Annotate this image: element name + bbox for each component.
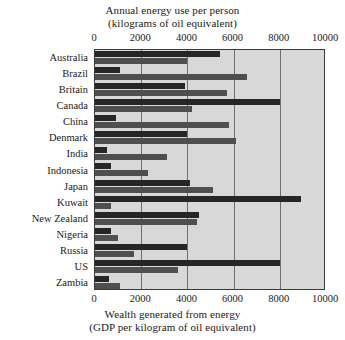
bar-wealth-generated [95, 219, 197, 225]
tick-label: 10000 [312, 32, 338, 44]
bar-row [95, 259, 324, 275]
plot-area [94, 49, 325, 290]
bar-energy-use [95, 196, 301, 202]
tick-label: 2000 [130, 32, 151, 44]
bar-energy-use [95, 276, 109, 282]
bar-wealth-generated [95, 283, 120, 289]
category-label: Russia [60, 245, 88, 256]
bar-row [95, 195, 324, 211]
bar-energy-use [95, 99, 280, 105]
category-label: Japan [64, 181, 88, 192]
tick-label: 4000 [176, 32, 197, 44]
bar-row [95, 130, 324, 146]
bar-wealth-generated [95, 203, 111, 209]
energy-wealth-bar-chart: Annual energy use per person (kilograms … [0, 0, 345, 340]
bar-row [95, 243, 324, 259]
category-label: Kuwait [57, 197, 88, 208]
tick-label: 4000 [176, 293, 197, 305]
bar-wealth-generated [95, 154, 167, 160]
bar-energy-use [95, 228, 111, 234]
bottom-axis-title-line1: Wealth generated from energy [0, 308, 345, 321]
bar-wealth-generated [95, 187, 213, 193]
bar-wealth-generated [95, 251, 134, 257]
bar-wealth-generated [95, 74, 247, 80]
bar-row [95, 114, 324, 130]
bar-wealth-generated [95, 170, 148, 176]
tick-label: 0 [91, 32, 96, 44]
tick-label: 8000 [268, 293, 289, 305]
bar-energy-use [95, 180, 190, 186]
bar-energy-use [95, 67, 120, 73]
category-label: Britain [59, 84, 88, 95]
bar-wealth-generated [95, 138, 236, 144]
bar-energy-use [95, 83, 185, 89]
bar-row [95, 211, 324, 227]
tick-label: 6000 [222, 32, 243, 44]
bar-wealth-generated [95, 122, 229, 128]
bar-energy-use [95, 244, 187, 250]
bar-energy-use [95, 115, 116, 121]
bar-energy-use [95, 51, 220, 57]
category-label: Denmark [49, 132, 88, 143]
category-label: Canada [57, 100, 89, 111]
bottom-axis-title-line2: (GDP per kilogram of oil equivalent) [0, 321, 345, 334]
bar-energy-use [95, 131, 187, 137]
category-label: China [63, 116, 88, 127]
category-label: New Zealand [32, 213, 88, 224]
bar-energy-use [95, 212, 199, 218]
bar-row [95, 66, 324, 82]
category-label: India [66, 148, 88, 159]
bar-energy-use [95, 147, 107, 153]
bar-row [95, 162, 324, 178]
tick-label: 2000 [130, 293, 151, 305]
bar-energy-use [95, 163, 111, 169]
category-label: Zambia [56, 277, 88, 288]
tick-label: 0 [91, 293, 96, 305]
bar-row [95, 146, 324, 162]
category-label: Indonesia [47, 165, 88, 176]
top-axis-title-line2: (kilograms of oil equivalent) [0, 17, 345, 30]
tick-label: 6000 [222, 293, 243, 305]
bar-row [95, 227, 324, 243]
bar-wealth-generated [95, 90, 227, 96]
top-axis-tick-labels: 0200040006000800010000 [0, 32, 345, 46]
bar-energy-use [95, 260, 280, 266]
category-label: Nigeria [57, 229, 89, 240]
tick-label: 10000 [312, 293, 338, 305]
category-label: Brazil [62, 68, 88, 79]
bar-wealth-generated [95, 106, 192, 112]
bar-row [95, 275, 324, 290]
category-label: US [75, 261, 88, 272]
category-axis-labels: AustraliaBrazilBritainCanadaChinaDenmark… [0, 50, 91, 289]
bar-row [95, 82, 324, 98]
bar-wealth-generated [95, 235, 118, 241]
tick-label: 8000 [268, 32, 289, 44]
bar-row [95, 50, 324, 66]
bottom-axis-tick-labels: 0200040006000800010000 [0, 293, 345, 307]
bar-wealth-generated [95, 58, 187, 64]
category-label: Australia [50, 52, 89, 63]
top-axis-title-line1: Annual energy use per person [0, 4, 345, 17]
bar-row [95, 98, 324, 114]
bar-wealth-generated [95, 267, 178, 273]
bar-row [95, 179, 324, 195]
